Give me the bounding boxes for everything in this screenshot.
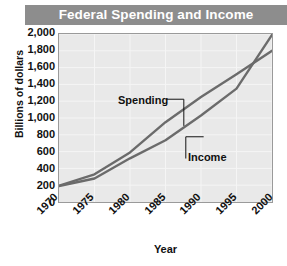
x-axis-tick-labels: 1970197519801985199019952000 bbox=[58, 204, 273, 244]
y-tick-label: 1,000 bbox=[3, 111, 55, 123]
y-tick-label: 2,000 bbox=[3, 26, 55, 38]
x-axis-title: Year bbox=[58, 243, 273, 255]
y-tick-label: 800 bbox=[3, 128, 55, 140]
series-label-spending: Spending bbox=[118, 94, 168, 106]
y-tick-label: 400 bbox=[3, 162, 55, 174]
plot-canvas bbox=[59, 34, 272, 202]
chart-title: Federal Spending and Income bbox=[25, 5, 287, 25]
plot-area bbox=[58, 33, 273, 203]
leader-line-spending bbox=[167, 99, 184, 126]
y-tick-label: 600 bbox=[3, 145, 55, 157]
chart-title-band: Federal Spending and Income bbox=[25, 5, 287, 25]
y-axis-tick-labels: 02004006008001,0001,2001,4001,6001,8002,… bbox=[0, 33, 55, 203]
series-label-income: Income bbox=[188, 151, 227, 163]
chart-figure: Federal Spending and Income 020040060080… bbox=[0, 0, 287, 266]
y-tick-label: 1,400 bbox=[3, 77, 55, 89]
gridlines bbox=[59, 34, 272, 202]
y-tick-label: 1,800 bbox=[3, 43, 55, 55]
y-tick-label: 1,200 bbox=[3, 94, 55, 106]
y-tick-label: 200 bbox=[3, 179, 55, 191]
y-tick-label: 1,600 bbox=[3, 60, 55, 72]
y-axis-title: Billions of dollars bbox=[13, 29, 25, 159]
